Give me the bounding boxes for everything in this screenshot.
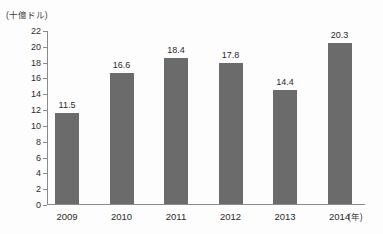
y-axis-tick-mark bbox=[43, 110, 47, 111]
y-axis-tick-label: 0 bbox=[36, 201, 41, 210]
bar[interactable]: 20.32014 bbox=[328, 43, 352, 204]
y-axis-tick-label: 14 bbox=[31, 90, 41, 99]
x-axis-category-label: 2009 bbox=[56, 211, 77, 222]
y-axis-tick-mark bbox=[43, 63, 47, 64]
y-axis-tick-mark bbox=[43, 142, 47, 143]
bar-value-label: 20.3 bbox=[331, 30, 349, 40]
y-axis-tick-mark bbox=[43, 205, 47, 206]
bar-value-label: 16.6 bbox=[113, 60, 131, 70]
y-axis-tick-label: 10 bbox=[31, 121, 41, 130]
bar-value-label: 18.4 bbox=[167, 45, 185, 55]
x-axis-category-label: 2011 bbox=[166, 211, 186, 222]
y-axis-tick-label: 16 bbox=[31, 74, 41, 83]
y-axis-tick-label: 6 bbox=[36, 153, 41, 162]
x-axis-category-label: 2014 bbox=[329, 211, 350, 222]
bar[interactable]: 16.62010 bbox=[110, 73, 134, 204]
bar[interactable]: 17.82012 bbox=[219, 63, 243, 204]
bar-value-label: 11.5 bbox=[59, 100, 76, 110]
x-axis-category-label: 2012 bbox=[220, 211, 241, 222]
y-axis-tick-mark bbox=[43, 189, 47, 190]
y-axis-tick-label: 2 bbox=[36, 185, 41, 194]
y-axis-line bbox=[47, 31, 48, 205]
y-axis-unit-caption: (十億ドル) bbox=[6, 10, 48, 21]
y-axis-tick-label: 20 bbox=[31, 42, 41, 51]
y-axis-tick-label: 22 bbox=[31, 27, 41, 36]
y-axis-tick-mark bbox=[43, 126, 47, 127]
x-axis-category-label: 2010 bbox=[111, 211, 132, 222]
y-axis-tick-mark bbox=[43, 78, 47, 79]
x-axis-caption: (年) bbox=[348, 212, 363, 223]
bar-value-label: 14.4 bbox=[276, 77, 294, 87]
bar-value-label: 17.8 bbox=[222, 50, 240, 60]
y-axis-tick-label: 18 bbox=[31, 58, 41, 67]
y-axis-tick-label: 12 bbox=[31, 106, 41, 115]
bar[interactable]: 18.42011 bbox=[164, 58, 188, 204]
plot-area: 2220181614121086420 11.5200916.6201018.4… bbox=[47, 31, 365, 205]
y-axis-tick-mark bbox=[43, 173, 47, 174]
y-axis-tick-mark bbox=[43, 47, 47, 48]
x-axis-category-label: 2013 bbox=[274, 211, 295, 222]
y-axis-tick-label: 4 bbox=[36, 169, 41, 178]
y-axis-tick-mark bbox=[43, 158, 47, 159]
y-axis-tick-mark bbox=[43, 31, 47, 32]
y-axis-tick-label: 8 bbox=[36, 137, 41, 146]
x-axis-line bbox=[47, 204, 365, 205]
bar[interactable]: 11.52009 bbox=[55, 113, 79, 204]
bar[interactable]: 14.42013 bbox=[273, 90, 297, 204]
bar-chart: (十億ドル) 2220181614121086420 11.5200916.62… bbox=[0, 0, 383, 234]
y-axis-tick-mark bbox=[43, 94, 47, 95]
